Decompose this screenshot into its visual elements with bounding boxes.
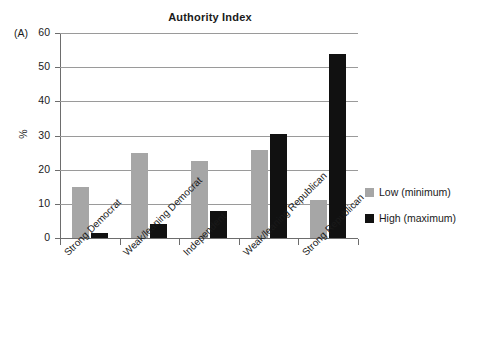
chart-title: Authority Index	[0, 11, 420, 23]
y-tick-label: 40	[20, 95, 50, 105]
x-tick-mark	[239, 239, 240, 245]
gridline	[60, 170, 358, 171]
y-tick-label: 60	[20, 27, 50, 37]
x-tick-mark	[298, 239, 299, 245]
authority-index-chart: Authority Index (A) % 0102030405060 Stro…	[0, 0, 479, 354]
x-tick-mark	[120, 239, 121, 245]
legend-item[interactable]: High (maximum)	[365, 212, 456, 224]
gridline	[60, 33, 358, 34]
y-tick-label: 50	[20, 61, 50, 71]
legend-swatch-low-icon	[365, 188, 374, 197]
y-tick-label: 0	[20, 232, 50, 242]
y-tick-label: 20	[20, 164, 50, 174]
y-tick-label: 10	[20, 198, 50, 208]
legend-item[interactable]: Low (minimum)	[365, 186, 456, 198]
chart-legend: Low (minimum)High (maximum)	[365, 186, 456, 238]
gridline	[60, 136, 358, 137]
y-tick-label: 30	[20, 130, 50, 140]
gridline	[60, 101, 358, 102]
legend-label: High (maximum)	[379, 212, 456, 224]
legend-swatch-high-icon	[365, 214, 374, 223]
x-tick-mark	[60, 239, 61, 245]
gridline	[60, 67, 358, 68]
x-tick-mark	[358, 239, 359, 245]
x-tick-mark	[179, 239, 180, 245]
legend-label: Low (minimum)	[379, 186, 451, 198]
